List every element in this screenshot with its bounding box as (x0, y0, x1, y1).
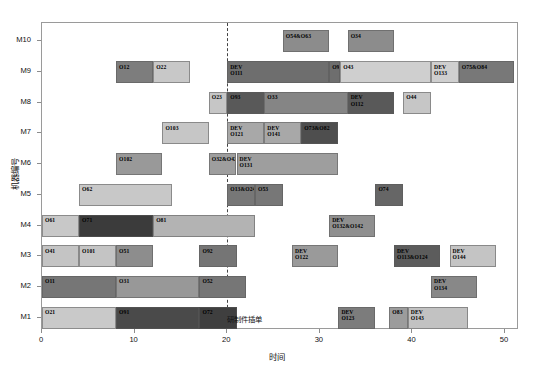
y-axis-tick-label-m9: M9 (5, 66, 31, 75)
x-axis-tick-mark (504, 329, 505, 333)
x-axis-tick-label: 40 (399, 335, 423, 344)
x-axis-tick-label: 20 (214, 335, 238, 344)
x-axis-tick-label: 10 (122, 335, 146, 344)
y-axis-tick-mark (37, 225, 41, 226)
insert-event-label: 研制件插单 (227, 313, 262, 324)
x-axis-tick-label: 30 (307, 335, 331, 344)
gantt-chart: O54&O63O34O12O22DEV O111O94&O104O43DEV O… (0, 0, 554, 369)
y-axis-tick-label-m4: M4 (5, 220, 31, 229)
y-axis-tick-mark (37, 102, 41, 103)
x-axis-tick-label: 50 (492, 335, 516, 344)
y-axis-tick-mark (37, 132, 41, 133)
y-axis-tick-label-m7: M7 (5, 127, 31, 136)
x-axis-tick-mark (319, 329, 320, 333)
x-axis-tick-mark (411, 329, 412, 333)
y-axis-tick-mark (37, 317, 41, 318)
y-axis-tick-label-m8: M8 (5, 97, 31, 106)
y-axis-tick-label-m2: M2 (5, 281, 31, 290)
y-axis-tick-mark (37, 40, 41, 41)
y-axis-tick-label-m10: M10 (5, 35, 31, 44)
y-axis-title: 机器编号 (8, 144, 20, 204)
y-axis-tick-mark (37, 286, 41, 287)
y-axis-tick-mark (37, 194, 41, 195)
x-axis-tick-mark (226, 329, 227, 333)
y-axis-tick-label-m3: M3 (5, 250, 31, 259)
x-axis-tick-mark (134, 329, 135, 333)
axis-decoration-layer: M10M9M8M7M6M5M4M3M2M101020304050 (0, 0, 554, 369)
x-axis-tick-label: 0 (29, 335, 53, 344)
y-axis-tick-mark (37, 71, 41, 72)
y-axis-tick-label-m1: M1 (5, 312, 31, 321)
y-axis-tick-mark (37, 163, 41, 164)
y-axis-tick-mark (37, 255, 41, 256)
x-axis-title: 时间 (0, 350, 554, 362)
x-axis-tick-mark (41, 329, 42, 333)
